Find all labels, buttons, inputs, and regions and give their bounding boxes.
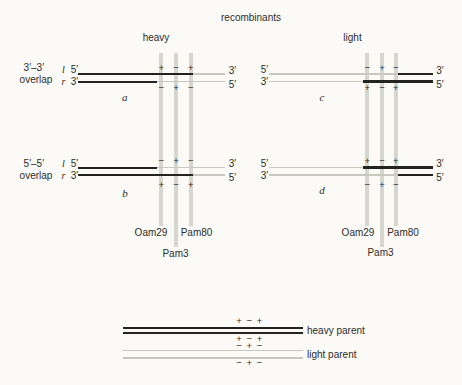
panel-a-letter: a (122, 91, 128, 102)
panel-a-bottom-heavy-segment (78, 81, 157, 83)
marker-label-oam29-right: Oam29 (342, 228, 375, 238)
panel-c-sign-above-pam80: − (393, 63, 399, 73)
panel-d-sign-below-pam3: + (379, 181, 385, 191)
panel-d-right-end-bottom: 5′ (436, 173, 443, 183)
panel-a-sign-below-oam29: − (158, 84, 164, 94)
panel-a-sign-above-pam3: − (173, 63, 179, 73)
panel-b-bottom-heavy-segment (78, 174, 193, 177)
marker-label-pam80-left: Pam80 (181, 228, 213, 238)
panel-d-left-end-bottom: 3′ (261, 171, 268, 181)
panel-b-bottom-light-segment (193, 174, 225, 175)
panel-b-top-light-segment (157, 167, 225, 168)
panel-c-sign-above-pam3: + (379, 63, 385, 73)
column-header-heavy: heavy (143, 33, 170, 43)
panel-c-bottom-light-segment (269, 81, 363, 82)
legend-heavy-strand-top (123, 327, 303, 329)
legend-light-strand-top (123, 350, 303, 351)
panel-c-right-end-bottom: 5′ (436, 80, 443, 90)
panel-b-sign-below-pam80: + (188, 181, 194, 191)
panel-c-letter: c (320, 92, 325, 103)
marker-label-pam80-right: Pam80 (387, 228, 419, 238)
panel-a-sign-above-oam29: + (158, 63, 164, 73)
marker-label-pam3-left: Pam3 (162, 249, 188, 259)
panel-b-sign-above-pam80: − (188, 156, 194, 166)
panel-d-sign-below-oam29: − (364, 181, 370, 191)
overlap-55-label: 5′–5′ (24, 159, 44, 169)
legend-light-parent-label: light parent (307, 350, 356, 360)
legend-heavy-parent-label: heavy parent (307, 326, 365, 336)
recombination-figure: recombinants heavy light Oam29 Pam80 Pam… (0, 0, 462, 385)
panel-b-sign-above-oam29: − (158, 156, 164, 166)
panel-d-sign-above-oam29: + (364, 156, 370, 166)
panel-b-sign-below-oam29: + (158, 181, 164, 191)
panel-a-strand-r-letter: r (62, 77, 66, 87)
marker-bar-oam29-left (159, 53, 163, 226)
panel-c-sign-below-oam29: + (364, 84, 370, 94)
marker-bar-pam80-left (189, 53, 193, 226)
panel-a-sign-below-pam3: + (173, 84, 179, 94)
panel-a-strand-l-letter: l (62, 65, 65, 75)
figure-title: recombinants (221, 13, 281, 23)
panel-c-top-light-segment (269, 73, 398, 74)
marker-bar-pam80-right (394, 53, 398, 226)
panel-a-right-end-top: 3′ (229, 66, 236, 76)
legend-heavy-strand-bottom (123, 332, 303, 334)
panel-c-top-heavy-segment (398, 73, 433, 75)
panel-c-left-end-bottom: 3′ (261, 77, 268, 87)
panel-b-sign-above-pam3: + (173, 156, 179, 166)
panel-d-sign-below-pam80: − (393, 181, 399, 191)
overlap-33-word: overlap (20, 75, 53, 85)
panel-d-top-light-segment (269, 167, 363, 168)
panel-a-sign-below-pam80: − (188, 84, 194, 94)
marker-label-oam29-left: Oam29 (135, 228, 168, 238)
panel-c-sign-above-oam29: − (364, 63, 370, 73)
panel-c-left-end-top: 5′ (261, 65, 268, 75)
overlap-55-word: overlap (20, 171, 53, 181)
marker-label-pam3-right: Pam3 (367, 248, 393, 258)
panel-d-bottom-light-segment (269, 174, 398, 175)
panel-d-left-end-top: 5′ (261, 159, 268, 169)
panel-a-sign-above-pam80: + (188, 63, 194, 73)
marker-bar-oam29-right (365, 53, 369, 226)
panel-b-right-end-bottom: 5′ (229, 173, 236, 183)
panel-a-top-heavy-segment (78, 73, 193, 76)
panel-d-top-heavy-segment (363, 166, 433, 169)
panel-d-letter: d (319, 185, 325, 196)
panel-d-bottom-heavy-segment (398, 174, 433, 176)
panel-d-sign-above-pam3: − (379, 156, 385, 166)
panel-c-sign-below-pam3: − (379, 84, 385, 94)
panel-b-sign-below-pam3: − (173, 181, 179, 191)
panel-c-sign-below-pam80: + (393, 84, 399, 94)
overlap-33-label: 3′–3′ (24, 63, 44, 73)
panel-b-right-end-top: 3′ (229, 159, 236, 169)
panel-b-top-heavy-segment (78, 167, 157, 169)
panel-a-top-light-segment (193, 73, 225, 74)
panel-d-right-end-top: 3′ (436, 159, 443, 169)
legend-heavy-signs-top: + − + (236, 316, 262, 326)
column-header-light: light (343, 33, 361, 43)
legend-light-strand-bottom (123, 357, 303, 358)
legend-light-signs-bottom: − + − (236, 359, 262, 369)
panel-d-sign-above-pam80: + (393, 156, 399, 166)
panel-b-strand-r-letter: r (62, 171, 66, 181)
panel-b-letter: b (122, 188, 128, 199)
panel-a-right-end-bottom: 5′ (229, 80, 236, 90)
panel-b-strand-l-letter: l (62, 159, 65, 169)
panel-c-right-end-top: 3′ (436, 66, 443, 76)
